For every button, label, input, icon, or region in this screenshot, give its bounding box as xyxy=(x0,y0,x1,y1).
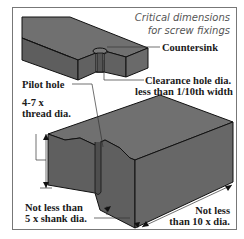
label-end-distance: Not less than 10 x dia. xyxy=(169,205,230,227)
label-clearance-hole: Clearance hole dia. less than 1/10th wid… xyxy=(145,75,233,97)
upper-workpiece xyxy=(22,17,148,80)
diagram-title: Critical dimensions for screw fixings xyxy=(135,11,230,37)
label-pilot-depth: 4-7 x thread dia. xyxy=(22,97,71,119)
clearance-line-1: Clearance hole dia. xyxy=(145,75,233,86)
edge-line-2: 5 x shank dia. xyxy=(25,213,87,224)
label-edge-distance: Not less than 5 x shank dia. xyxy=(25,202,87,224)
clearance-line-2: less than 1/10th width xyxy=(135,86,233,97)
edge-line-1: Not less than xyxy=(25,202,87,213)
end-line-2: than 10 x dia. xyxy=(169,216,230,227)
depth-line-1: 4-7 x xyxy=(22,97,71,108)
depth-line-2: thread dia. xyxy=(22,108,71,119)
end-line-1: Not less xyxy=(169,205,230,216)
title-line-2: for screw fixings xyxy=(135,24,230,37)
label-countersink: Countersink xyxy=(162,42,218,53)
title-line-1: Critical dimensions xyxy=(135,11,230,24)
label-pilot-hole: Pilot hole xyxy=(22,79,64,90)
pilot-hole-shape xyxy=(95,142,101,195)
